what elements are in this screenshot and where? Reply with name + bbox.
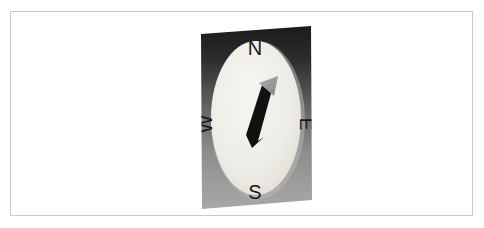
compass-photo: N E S W xyxy=(196,24,316,216)
dial-label-south: S xyxy=(248,181,261,203)
dial-label-north: N xyxy=(248,37,262,59)
figure-frame: N E S W xyxy=(10,11,473,216)
dial-label-west: W xyxy=(196,114,216,133)
page-root: N E S W xyxy=(0,0,484,228)
dial-label-east: E xyxy=(296,118,316,131)
compass-illustration: N E S W xyxy=(196,24,316,216)
